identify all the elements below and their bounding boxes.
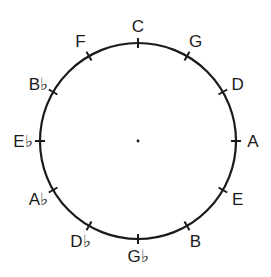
circle-of-fifths-diagram: C G D A E B G♭ D♭ A♭ E♭ B♭ F [0, 0, 271, 277]
note-label-d: D [231, 75, 243, 94]
note-label-a-flat: A♭ [29, 190, 48, 209]
center-dot [137, 140, 140, 143]
note-labels: C G D A E B G♭ D♭ A♭ E♭ B♭ F [13, 17, 259, 266]
note-label-e-flat: E♭ [13, 132, 32, 151]
note-label-e: E [232, 190, 243, 209]
note-label-g: G [189, 32, 202, 51]
note-label-b: B [190, 232, 201, 251]
note-label-g-flat: G♭ [127, 247, 148, 266]
note-label-a: A [247, 132, 259, 151]
note-label-d-flat: D♭ [70, 232, 90, 251]
note-label-f: F [75, 32, 85, 51]
note-label-c: C [132, 17, 144, 36]
note-label-b-flat: B♭ [29, 75, 48, 94]
